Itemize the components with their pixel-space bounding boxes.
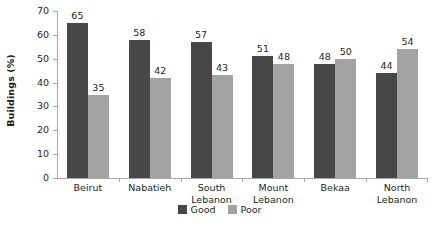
bar-good[interactable]: 57 xyxy=(191,42,212,178)
y-axis-tick-label: 70 xyxy=(37,5,49,16)
legend-item-good[interactable]: Good xyxy=(178,204,216,215)
bar-pair: 4454 xyxy=(376,11,418,178)
legend-item-poor[interactable]: Poor xyxy=(228,204,262,215)
bar-value-label: 51 xyxy=(257,43,269,54)
y-axis-tick-label: 10 xyxy=(37,148,49,159)
category-label-line: Bekaa xyxy=(304,182,366,194)
bar-value-label: 48 xyxy=(278,51,290,62)
bar-group: 5743 xyxy=(181,11,243,178)
bar-good[interactable]: 65 xyxy=(67,23,88,178)
bar-poor[interactable]: 50 xyxy=(335,59,356,178)
bar-value-label: 65 xyxy=(71,10,83,21)
bar-pair: 4850 xyxy=(314,11,356,178)
bar-poor[interactable]: 48 xyxy=(273,64,294,179)
category-label-line: Nabatieh xyxy=(119,182,181,194)
bar-value-label: 42 xyxy=(154,65,166,76)
bar-pair: 5842 xyxy=(129,11,171,178)
bar-good[interactable]: 51 xyxy=(252,56,273,178)
bar-pair: 6535 xyxy=(67,11,109,178)
y-axis-tick-label: 60 xyxy=(37,29,49,40)
bar-good[interactable]: 58 xyxy=(129,40,150,178)
bar-group: 4850 xyxy=(304,11,366,178)
bar-groups: 653558425743514848504454 xyxy=(57,11,428,178)
bar-value-label: 54 xyxy=(402,36,414,47)
bar-good[interactable]: 48 xyxy=(314,64,335,179)
bar-chart: Buildings (%) 706050403020100 6535584257… xyxy=(0,0,439,231)
bar-value-label: 58 xyxy=(133,27,145,38)
bar-poor[interactable]: 35 xyxy=(88,95,109,179)
bar-group: 5148 xyxy=(242,11,304,178)
chart-legend: GoodPoor xyxy=(0,204,439,215)
bar-group: 5842 xyxy=(119,11,181,178)
bar-value-label: 43 xyxy=(216,62,228,73)
x-axis-category-label: Nabatieh xyxy=(119,182,181,205)
legend-label: Good xyxy=(191,204,216,215)
legend-swatch-icon xyxy=(178,205,187,214)
bar-value-label: 48 xyxy=(319,51,331,62)
bar-good[interactable]: 44 xyxy=(376,73,397,178)
y-axis-tick-label: 20 xyxy=(37,124,49,135)
bar-pair: 5148 xyxy=(252,11,294,178)
x-axis-category-label: SouthLebanon xyxy=(181,182,243,205)
category-label-line: Beirut xyxy=(57,182,119,194)
x-axis-category-label: Bekaa xyxy=(304,182,366,205)
bar-value-label: 44 xyxy=(381,60,393,71)
x-axis-category-labels: BeirutNabatiehSouthLebanonMountLebanonBe… xyxy=(57,182,428,205)
bar-poor[interactable]: 43 xyxy=(212,75,233,178)
bar-group: 4454 xyxy=(366,11,428,178)
bar-poor[interactable]: 42 xyxy=(150,78,171,178)
y-axis-ticks: 706050403020100 xyxy=(0,0,57,179)
bar-value-label: 35 xyxy=(92,82,104,93)
y-axis-tick-label: 0 xyxy=(43,172,49,183)
category-label-line: North xyxy=(366,182,428,194)
legend-swatch-icon xyxy=(228,205,237,214)
bar-value-label: 57 xyxy=(195,29,207,40)
y-axis-tick-label: 30 xyxy=(37,100,49,111)
x-axis-category-label: MountLebanon xyxy=(242,182,304,205)
bar-value-label: 50 xyxy=(340,46,352,57)
y-axis-tick-label: 50 xyxy=(37,53,49,64)
bar-group: 6535 xyxy=(57,11,119,178)
x-axis-category-label: NorthLebanon xyxy=(366,182,428,205)
legend-label: Poor xyxy=(241,204,262,215)
y-axis-tick-label: 40 xyxy=(37,77,49,88)
category-label-line: Mount xyxy=(242,182,304,194)
bar-pair: 5743 xyxy=(191,11,233,178)
bar-poor[interactable]: 54 xyxy=(397,49,418,178)
x-axis-category-label: Beirut xyxy=(57,182,119,205)
category-label-line: South xyxy=(181,182,243,194)
